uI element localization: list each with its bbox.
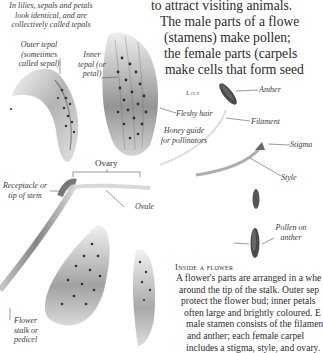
label-line: Flower xyxy=(14,316,38,326)
label-line: stalk or xyxy=(14,326,38,336)
main-text: to attract visiting animals. The male pa… xyxy=(151,0,304,78)
label-pollen: Pollen on anther xyxy=(271,223,311,242)
main-text-line: to attract visiting animals. xyxy=(151,0,304,14)
main-text-line: The male parts of a flowe xyxy=(151,14,304,30)
caption-line: protect the flower bud; inner petals xyxy=(175,295,323,307)
label-ovary: Ovary xyxy=(95,158,118,168)
outer-tepal-illustration xyxy=(10,69,78,162)
label-outer-tepal: Outer tepal (sometimes called sepal) xyxy=(2,40,76,69)
label-line: petal) xyxy=(76,69,108,79)
caption-heading: Inside a flower xyxy=(175,262,323,272)
label-stigma: Stigma xyxy=(290,140,312,150)
style-stigma-illustration xyxy=(196,142,265,175)
label-line: Inner xyxy=(76,50,108,60)
label-line: tip of stem xyxy=(0,191,50,201)
label-inner-tepal: Inner tepal (or petal) xyxy=(76,50,108,79)
right-bottom-tepal-illustration xyxy=(133,250,155,346)
label-line: Outer tepal (sometimes xyxy=(2,40,76,59)
main-text-line: the female parts (carpels xyxy=(151,46,304,62)
note-line: In lilies, sepals and petals xyxy=(3,1,99,11)
label-style: Style xyxy=(281,173,297,183)
main-text-line: make cells that form seed xyxy=(151,62,304,78)
label-line: for pollinators xyxy=(155,136,213,146)
caption-line: A flower's parts are arranged in a whe xyxy=(175,272,323,284)
caption-line: and anther; each female carpel xyxy=(175,330,323,342)
label-fleshy-hair: Fleshy hair xyxy=(176,109,213,119)
inner-tepal-illustration xyxy=(102,33,158,156)
note-line: look identical, and are xyxy=(3,11,99,21)
note-line: collectively called tepals xyxy=(3,20,99,30)
anther-small-illustration xyxy=(253,189,260,209)
label-line: anther xyxy=(271,233,311,243)
label-line: pedicel xyxy=(14,335,38,345)
label-line: called sepal) xyxy=(2,59,76,69)
label-ovule: Ovule xyxy=(135,202,154,212)
tepals-intro-note: In lilies, sepals and petals look identi… xyxy=(3,1,99,30)
label-anther: Anther xyxy=(259,85,281,95)
caption-block: Inside a flower A flower's parts are arr… xyxy=(175,262,323,353)
label-line: Pollen on xyxy=(271,223,311,233)
label-honey-guide: Honey guide for pollinators xyxy=(155,126,213,145)
caption-line: often large and brightly coloured. E xyxy=(175,307,323,319)
main-text-line: (stamens) make pollen; xyxy=(151,30,304,46)
label-filament: Filament xyxy=(251,117,280,127)
label-receptacle: Receptacle or tip of stem xyxy=(0,181,50,200)
anther-illustration xyxy=(216,81,239,107)
label-line: Honey guide xyxy=(155,126,213,136)
pollen-anther-highlight xyxy=(252,229,256,251)
bottom-tepal-illustration xyxy=(45,226,110,326)
caption-line: includes a stigma, style, and ovary. xyxy=(175,342,323,353)
label-lily: Lily xyxy=(186,89,201,97)
label-flower-stalk: Flower stalk or pedicel xyxy=(14,316,38,345)
label-line: Receptacle or xyxy=(0,181,50,191)
label-line: tepal (or xyxy=(76,60,108,70)
caption-line: around the tip of the stalk. Outer sep xyxy=(175,284,323,296)
caption-line: male stamen consists of the filamen xyxy=(175,318,323,330)
